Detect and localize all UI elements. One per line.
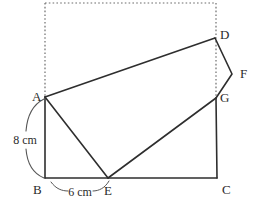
vertex-label-a: A — [32, 89, 42, 104]
vertex-label-b: B — [33, 182, 42, 197]
geometry-figure: 8 cm 6 cm A B C D E F G — [0, 0, 260, 202]
vertex-label-f: F — [240, 66, 247, 81]
vertex-labels: A B C D E F G — [32, 27, 247, 198]
segment-a-e — [45, 97, 108, 178]
vertex-label-e: E — [104, 183, 112, 198]
vertex-label-d: D — [220, 27, 229, 42]
dimension-label-height: 8 cm — [13, 133, 37, 147]
height-brace-lower — [26, 149, 44, 178]
segment-e-g — [108, 98, 216, 178]
segment-d-f-g — [215, 38, 232, 98]
figure-canvas: 8 cm 6 cm A B C D E F G — [0, 0, 260, 202]
solid-figure-outline — [45, 38, 232, 178]
segment-g-c — [216, 98, 217, 178]
segment-a-d — [45, 38, 215, 97]
dotted-construction-rectangle — [45, 3, 216, 98]
dimension-label-base: 6 cm — [68, 185, 92, 199]
vertex-label-g: G — [220, 90, 229, 105]
base-tick-left — [51, 182, 68, 191]
vertex-label-c: C — [222, 182, 231, 197]
